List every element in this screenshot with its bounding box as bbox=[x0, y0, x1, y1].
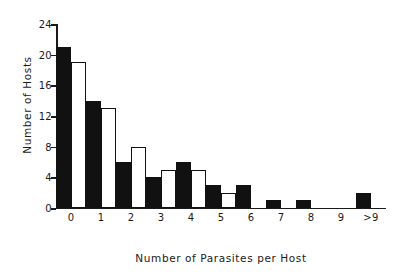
bar-open bbox=[71, 62, 86, 208]
x-tick-label: 5 bbox=[218, 212, 225, 223]
y-tick-label: 24 bbox=[39, 19, 52, 30]
x-tick-label: 1 bbox=[98, 212, 105, 223]
bar-filled bbox=[176, 162, 191, 208]
histogram-figure: Number of Hosts Number of Parasites per … bbox=[0, 0, 404, 278]
bar-filled bbox=[146, 177, 161, 208]
y-axis-label: Number of Hosts bbox=[14, 5, 40, 205]
x-tick-label: 2 bbox=[128, 212, 135, 223]
bar-open bbox=[131, 147, 146, 208]
bar-open bbox=[221, 193, 236, 208]
x-tick-label: 0 bbox=[68, 212, 75, 223]
y-tick-label: 20 bbox=[39, 49, 52, 60]
x-tick-label: 9 bbox=[338, 212, 345, 223]
bar-filled bbox=[266, 200, 281, 208]
x-tick-label: >9 bbox=[363, 212, 378, 223]
bar-open bbox=[101, 108, 116, 208]
y-tick-label: 4 bbox=[45, 172, 52, 183]
x-tick-label: 4 bbox=[188, 212, 195, 223]
bar-filled bbox=[86, 101, 101, 208]
y-tick-label: 8 bbox=[45, 141, 52, 152]
bar-filled bbox=[56, 47, 71, 208]
plot-area: 04812162024 bbox=[56, 24, 386, 208]
bar-filled bbox=[116, 162, 131, 208]
x-tick-label: 8 bbox=[308, 212, 315, 223]
x-tick-label: 7 bbox=[278, 212, 285, 223]
x-tick-label: 6 bbox=[248, 212, 255, 223]
bar-open bbox=[161, 170, 176, 208]
bar-filled bbox=[296, 200, 311, 208]
x-tick-label: 3 bbox=[158, 212, 165, 223]
y-tick-label: 0 bbox=[45, 203, 52, 214]
y-tick-label: 12 bbox=[39, 111, 52, 122]
bar-filled bbox=[236, 185, 251, 208]
bar-filled bbox=[356, 193, 371, 208]
y-tick-label: 16 bbox=[39, 80, 52, 91]
x-axis-label: Number of Parasites per Host bbox=[56, 252, 386, 264]
bar-open bbox=[191, 170, 206, 208]
bar-filled bbox=[206, 185, 221, 208]
